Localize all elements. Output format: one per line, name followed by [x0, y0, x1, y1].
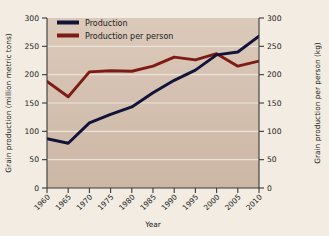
y2-axis-title: Grain production per person (kg): [313, 42, 322, 164]
right-tick-label-50: 50: [267, 155, 277, 164]
right-tick-label-200: 200: [267, 70, 282, 79]
grain-production-chart: 050100150200250300 050100150200250300 19…: [0, 0, 329, 236]
right-tick-label-150: 150: [267, 99, 282, 108]
y-axis-title: Grain production (million metric tons): [4, 33, 13, 172]
left-tick-label-150: 150: [25, 99, 40, 108]
legend-label-production: Production: [85, 19, 128, 28]
right-tick-label-250: 250: [267, 42, 282, 51]
left-tick-label-250: 250: [25, 42, 40, 51]
right-tick-label-300: 300: [267, 14, 282, 23]
left-tick-label-50: 50: [29, 155, 39, 164]
right-tick-label-100: 100: [267, 127, 282, 136]
x-axis-title: Year: [144, 220, 162, 229]
left-tick-label-100: 100: [25, 127, 40, 136]
left-tick-label-0: 0: [34, 184, 39, 193]
legend-label-production-per-person: Production per person: [85, 32, 173, 41]
left-tick-label-200: 200: [25, 70, 40, 79]
chart-canvas: 050100150200250300 050100150200250300 19…: [0, 0, 329, 236]
right-tick-label-0: 0: [267, 184, 272, 193]
left-tick-label-300: 300: [25, 14, 40, 23]
